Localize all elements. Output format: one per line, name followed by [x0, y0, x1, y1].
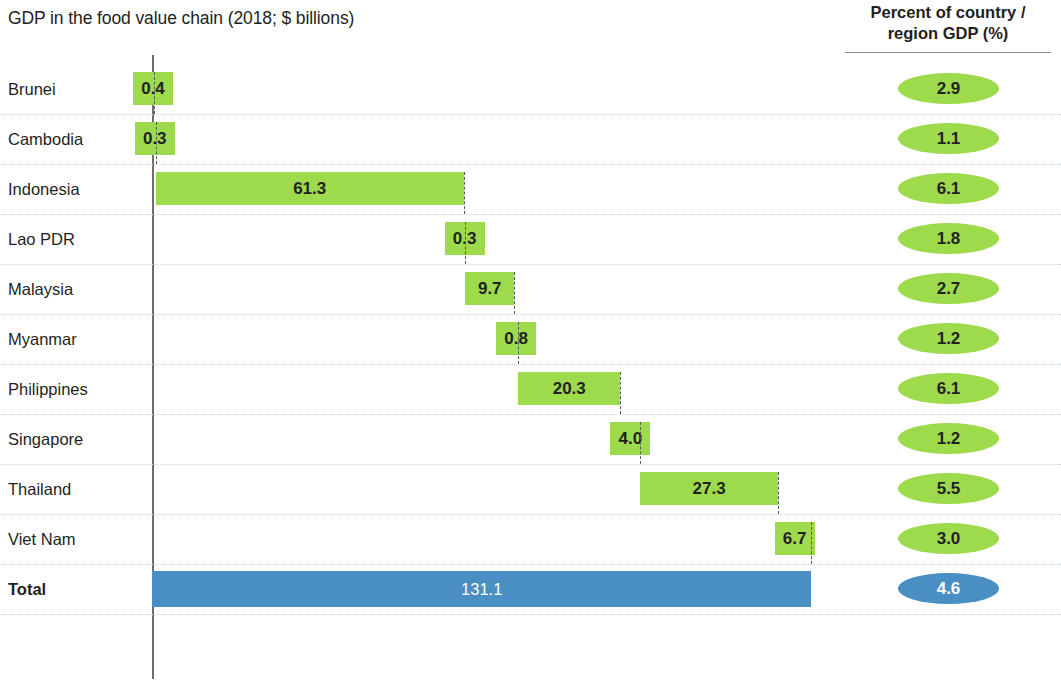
percent-pill: 3.0 [898, 523, 999, 554]
percent-pill: 1.2 [898, 323, 999, 354]
bar-value-label: 27.3 [640, 472, 777, 505]
waterfall-chart: GDP in the food value chain (2018; $ bil… [0, 0, 1061, 693]
plot-area: Brunei0.42.9Cambodia0.31.1Indonesia61.36… [0, 64, 1061, 693]
waterfall-connector [811, 522, 812, 564]
percent-header-rule [845, 52, 1051, 53]
percent-column-header: Percent of country / region GDP (%) [845, 2, 1051, 44]
chart-row: Total131.14.6 [0, 564, 1061, 614]
percent-pill: 4.6 [898, 573, 999, 604]
percent-pill: 2.7 [898, 273, 999, 304]
percent-pill: 1.8 [898, 223, 999, 254]
waterfall-connector [778, 472, 779, 514]
chart-row: Cambodia0.31.1 [0, 114, 1061, 164]
waterfall-bar: 27.3 [640, 472, 777, 505]
waterfall-connector [156, 122, 157, 164]
waterfall-bar: 6.7 [775, 522, 815, 555]
row-label-brunei: Brunei [8, 64, 143, 114]
chart-row: Philippines20.36.1 [0, 364, 1061, 414]
row-label-total: Total [8, 564, 143, 614]
percent-header-line-1: Percent of country / [845, 2, 1051, 23]
waterfall-bar: 9.7 [465, 272, 514, 305]
waterfall-bar: 0.4 [133, 72, 173, 105]
waterfall-bar: 61.3 [156, 172, 464, 205]
percent-pill: 1.1 [898, 123, 999, 154]
waterfall-connector [465, 222, 466, 264]
waterfall-bar: 0.8 [496, 322, 536, 355]
bar-value-label: 9.7 [465, 272, 514, 305]
total-bar: 131.1 [152, 571, 811, 607]
waterfall-bar: 4.0 [610, 422, 650, 455]
chart-row: Indonesia61.36.1 [0, 164, 1061, 214]
percent-pill: 6.1 [898, 373, 999, 404]
bar-value-label: 131.1 [152, 571, 811, 607]
waterfall-connector [464, 172, 465, 214]
chart-row: Lao PDR0.31.8 [0, 214, 1061, 264]
percent-pill: 1.2 [898, 423, 999, 454]
row-label-philippines: Philippines [8, 364, 143, 414]
gridline [0, 614, 1061, 615]
waterfall-connector [518, 322, 519, 364]
bar-value-label: 61.3 [156, 172, 464, 205]
row-label-indonesia: Indonesia [8, 164, 143, 214]
row-label-thailand: Thailand [8, 464, 143, 514]
row-label-viet-nam: Viet Nam [8, 514, 143, 564]
row-label-myanmar: Myanmar [8, 314, 143, 364]
chart-row: Singapore4.01.2 [0, 414, 1061, 464]
chart-row: Viet Nam6.73.0 [0, 514, 1061, 564]
percent-pill: 2.9 [898, 73, 999, 104]
waterfall-connector [514, 272, 515, 314]
percent-pill: 5.5 [898, 473, 999, 504]
percent-header-line-2: region GDP (%) [845, 23, 1051, 44]
chart-row: Malaysia9.72.7 [0, 264, 1061, 314]
waterfall-connector [640, 422, 641, 464]
waterfall-connector [620, 372, 621, 414]
chart-row: Myanmar0.81.2 [0, 314, 1061, 364]
row-label-cambodia: Cambodia [8, 114, 143, 164]
row-label-lao-pdr: Lao PDR [8, 214, 143, 264]
row-label-malaysia: Malaysia [8, 264, 143, 314]
row-label-singapore: Singapore [8, 414, 143, 464]
chart-title: GDP in the food value chain (2018; $ bil… [8, 8, 354, 29]
chart-row: Brunei0.42.9 [0, 64, 1061, 114]
chart-row: Thailand27.35.5 [0, 464, 1061, 514]
percent-pill: 6.1 [898, 173, 999, 204]
waterfall-bar: 20.3 [518, 372, 620, 405]
waterfall-connector [154, 72, 155, 114]
bar-value-label: 20.3 [518, 372, 620, 405]
